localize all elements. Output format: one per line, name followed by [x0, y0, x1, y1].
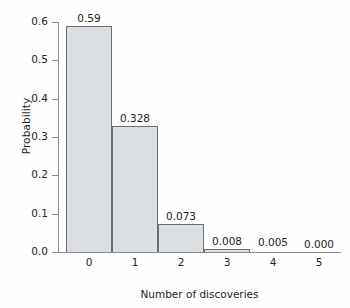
y-tick: 0.0 [52, 252, 58, 253]
x-tick-label: 5 [296, 256, 342, 268]
y-tick: 0.6 [52, 22, 58, 23]
x-tick-label: 2 [158, 256, 204, 268]
y-tick-label: 0.3 [31, 130, 48, 142]
y-tick-label: 0.6 [31, 15, 48, 27]
bar-slot: 0.328 [112, 22, 158, 252]
y-tick: 0.5 [52, 60, 58, 61]
x-tick-label: 1 [112, 256, 158, 268]
y-axis-title: Probability [20, 56, 32, 196]
bar-slot: 0.59 [66, 22, 112, 252]
bar[interactable] [66, 26, 112, 252]
x-tick-label: 0 [66, 256, 112, 268]
bar[interactable] [112, 126, 158, 252]
bar-value-label: 0.000 [304, 238, 334, 250]
y-tick: 0.2 [52, 175, 58, 176]
bar[interactable] [250, 250, 296, 252]
bar-series: 0.590.3280.0730.0080.0050.000 [66, 22, 341, 252]
y-tick-label: 0.2 [31, 168, 48, 180]
y-tick-label: 0.0 [31, 245, 48, 257]
plot-area: 0.00.10.20.30.40.50.6 0.590.3280.0730.00… [58, 22, 341, 252]
y-axis-line [58, 22, 59, 253]
bar-value-label: 0.008 [212, 235, 242, 247]
bar-value-label: 0.328 [120, 112, 150, 124]
probability-bar-chart: Probability 0.00.10.20.30.40.50.6 0.590.… [0, 0, 350, 308]
x-tick-label: 3 [204, 256, 250, 268]
bar-slot: 0.000 [296, 22, 342, 252]
x-tick-label: 4 [250, 256, 296, 268]
y-tick: 0.3 [52, 137, 58, 138]
bar-value-label: 0.59 [77, 12, 100, 24]
x-axis-title: Number of discoveries [58, 288, 341, 300]
bar-slot: 0.005 [250, 22, 296, 252]
x-axis-line [58, 252, 341, 253]
y-tick-label: 0.5 [31, 53, 48, 65]
y-tick: 0.1 [52, 214, 58, 215]
bar-value-label: 0.005 [258, 236, 288, 248]
bar-slot: 0.073 [158, 22, 204, 252]
bar[interactable] [204, 249, 250, 252]
y-tick: 0.4 [52, 99, 58, 100]
y-tick-label: 0.1 [31, 207, 48, 219]
y-tick-label: 0.4 [31, 92, 48, 104]
bar[interactable] [158, 224, 204, 252]
bar-slot: 0.008 [204, 22, 250, 252]
bar-value-label: 0.073 [166, 210, 196, 222]
